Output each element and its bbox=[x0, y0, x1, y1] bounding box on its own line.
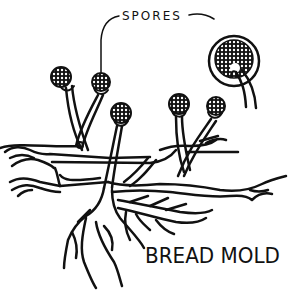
spores-label: SPORES bbox=[122, 9, 182, 23]
sporangium-1 bbox=[51, 67, 74, 91]
figure-title: BREAD MOLD bbox=[145, 244, 280, 268]
sporangium-5 bbox=[207, 97, 225, 118]
sporangium-4 bbox=[169, 94, 189, 117]
stolon-hyphae bbox=[0, 136, 286, 200]
sporangium-2 bbox=[92, 73, 110, 94]
sporangium-3 bbox=[111, 103, 131, 126]
rhizoids bbox=[64, 188, 212, 288]
sporangiophores bbox=[66, 86, 216, 188]
